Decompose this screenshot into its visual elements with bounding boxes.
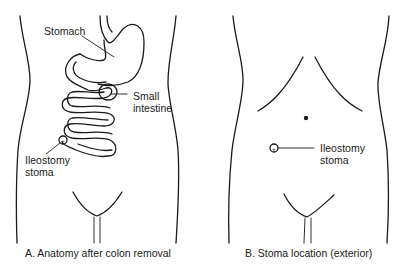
caption-panel-a: A. Anatomy after colon removal (25, 247, 171, 259)
pelvis-curve (73, 192, 122, 216)
rib-margin-right (315, 57, 362, 111)
label-small-intestine-2: intestine (133, 102, 172, 114)
panel-b: + Ileostomy stoma B. Stoma location (ext… (229, 16, 389, 259)
esophagus-inner (107, 16, 112, 32)
label-small-intestine-1: Small (133, 90, 159, 102)
stoma-mark-icon: + (272, 146, 276, 152)
anatomy-figure: + Stomach Small intestine Ileostomy stom… (0, 0, 401, 269)
label-ileostomy-b-1: Ileostomy (320, 142, 366, 154)
label-stomach: Stomach (44, 25, 86, 37)
pelvis-curve (284, 194, 334, 217)
ileostomy-leader-line (46, 143, 60, 154)
panel-a: + Stomach Small intestine Ileostomy stom… (16, 16, 178, 259)
caption-panel-b: B. Stoma location (exterior) (245, 247, 372, 259)
stomach-leader-line (82, 36, 114, 57)
small-intestine-inner (68, 62, 113, 151)
torso-outline-left (16, 16, 30, 243)
leg-gap-left (304, 218, 305, 243)
torso-outline-right (168, 16, 179, 243)
label-ileostomy-a-1: Ileostomy (25, 154, 71, 166)
navel-icon (304, 116, 308, 120)
torso-outline-right (378, 16, 389, 243)
rib-margin-left (258, 57, 303, 111)
label-ileostomy-a-2: stoma (25, 166, 54, 178)
stoma-mark-icon: + (61, 138, 65, 144)
torso-outline-left (229, 16, 243, 243)
label-ileostomy-b-2: stoma (320, 154, 349, 166)
